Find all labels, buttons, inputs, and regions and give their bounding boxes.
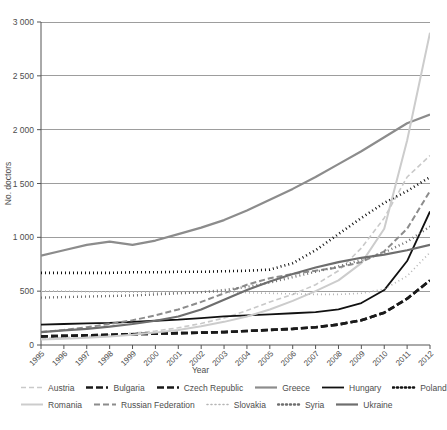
legend-swatch-hungary xyxy=(321,383,345,392)
legend-label: Greece xyxy=(282,383,310,393)
series-group xyxy=(41,33,430,340)
series-line-hungary xyxy=(41,211,430,324)
y-tick-label: 2 500 xyxy=(13,71,35,81)
x-tick-label: 2012 xyxy=(416,349,434,368)
series-line-romania xyxy=(41,33,430,340)
chart-legend: AustriaBulgariaCzech RepublicGreeceHunga… xyxy=(20,379,434,413)
x-tick-label: 1998 xyxy=(96,349,115,368)
y-tick-label: 2 000 xyxy=(13,125,35,135)
legend-item-greece[interactable]: Greece xyxy=(254,383,310,393)
legend-label: Hungary xyxy=(349,383,381,393)
y-tick-label: 500 xyxy=(20,286,34,296)
y-tick-label: 0 xyxy=(29,340,34,350)
series-line-greece xyxy=(41,115,430,256)
legend-item-romania[interactable]: Romania xyxy=(20,400,82,410)
legend-swatch-syria xyxy=(277,400,301,409)
legend-item-syria[interactable]: Syria xyxy=(277,400,324,410)
legend-item-slovakia[interactable]: Slovakia xyxy=(206,400,266,410)
legend-item-poland[interactable]: Poland xyxy=(392,383,446,393)
x-tick-label: 2011 xyxy=(394,349,413,368)
legend-label: Russian Federation xyxy=(121,400,195,410)
x-tick-label: 1996 xyxy=(50,349,69,368)
legend-label: Austria xyxy=(48,383,74,393)
x-tick-label: 2005 xyxy=(256,349,275,368)
x-tick-label: 2006 xyxy=(279,349,298,368)
legend-item-hungary[interactable]: Hungary xyxy=(321,383,381,393)
legend-swatch-russian-federation xyxy=(93,400,117,409)
x-tick-label: 1995 xyxy=(27,349,46,368)
legend-item-austria[interactable]: Austria xyxy=(20,383,74,393)
y-axis-title: No. doctors xyxy=(3,162,13,205)
y-tick-label: 3 000 xyxy=(13,17,35,27)
legend-swatch-bulgaria xyxy=(85,383,109,392)
legend-label: Romania xyxy=(48,400,82,410)
x-tick-label: 2008 xyxy=(325,349,344,368)
legend-swatch-romania xyxy=(20,400,44,409)
legend-row-2: RomaniaRussian FederationSlovakiaSyriaUk… xyxy=(20,396,434,413)
legend-swatch-slovakia xyxy=(206,400,230,409)
x-tick-label: 2010 xyxy=(371,349,390,368)
y-tick-label: 1 000 xyxy=(13,232,35,242)
legend-swatch-greece xyxy=(254,383,278,392)
legend-item-bulgaria[interactable]: Bulgaria xyxy=(85,383,144,393)
y-tick-label: 1 500 xyxy=(13,179,35,189)
x-tick-label: 1997 xyxy=(73,349,92,368)
legend-swatch-austria xyxy=(20,383,44,392)
legend-label: Slovakia xyxy=(234,400,266,410)
x-tick-label: 2003 xyxy=(211,349,230,368)
legend-label: Bulgaria xyxy=(113,383,144,393)
legend-item-czech-republic[interactable]: Czech Republic xyxy=(156,383,244,393)
x-axis-title: Year xyxy=(192,365,209,375)
x-tick-label: 2009 xyxy=(348,349,367,368)
legend-label: Syria xyxy=(305,400,324,410)
x-tick-label: 2004 xyxy=(233,349,252,368)
legend-swatch-czech-republic xyxy=(156,383,180,392)
x-tick-label: 2007 xyxy=(302,349,321,368)
series-line-poland xyxy=(41,177,430,273)
legend-row-1: AustriaBulgariaCzech RepublicGreeceHunga… xyxy=(20,379,434,396)
series-line-russian-federation xyxy=(41,191,430,332)
legend-label: Czech Republic xyxy=(184,383,244,393)
x-tick-label: 1999 xyxy=(119,349,138,368)
legend-swatch-ukraine xyxy=(335,400,359,409)
x-tick-label: 2000 xyxy=(142,349,161,368)
legend-label: Poland xyxy=(420,383,446,393)
x-tick-label: 2001 xyxy=(165,349,184,368)
legend-item-russian-federation[interactable]: Russian Federation xyxy=(93,400,195,410)
legend-item-ukraine[interactable]: Ukraine xyxy=(335,400,392,410)
legend-swatch-poland xyxy=(392,383,416,392)
legend-label: Ukraine xyxy=(363,400,392,410)
